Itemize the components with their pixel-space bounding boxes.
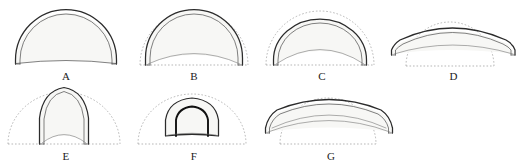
figure-label-e: E xyxy=(0,150,132,162)
figure-b-drawing xyxy=(128,2,260,70)
arch-body-fill-d xyxy=(392,31,514,54)
arch-body-fill-a xyxy=(16,13,116,63)
figure-d: D xyxy=(384,2,523,82)
figure-g-drawing xyxy=(256,86,406,150)
figure-label-g: G xyxy=(256,150,406,162)
figure-label-c: C xyxy=(256,70,388,82)
figure-label-d: D xyxy=(384,70,523,82)
figure-a-drawing xyxy=(0,2,132,70)
figure-d-drawing xyxy=(384,2,523,70)
figure-e: E xyxy=(0,86,132,166)
figure-plate: A B C xyxy=(0,0,523,168)
figure-label-f: F xyxy=(128,150,260,162)
figure-f: F xyxy=(128,86,260,166)
figure-e-drawing xyxy=(0,86,132,150)
arch-body-fill-b xyxy=(146,10,242,64)
figure-c-drawing xyxy=(256,2,388,70)
figure-label-a: A xyxy=(0,70,132,82)
figure-g: G xyxy=(256,86,406,166)
figure-label-b: B xyxy=(128,70,260,82)
figure-a: A xyxy=(0,2,132,82)
figure-b: B xyxy=(128,2,260,82)
figure-c: C xyxy=(256,2,388,82)
figure-f-drawing xyxy=(128,86,260,150)
